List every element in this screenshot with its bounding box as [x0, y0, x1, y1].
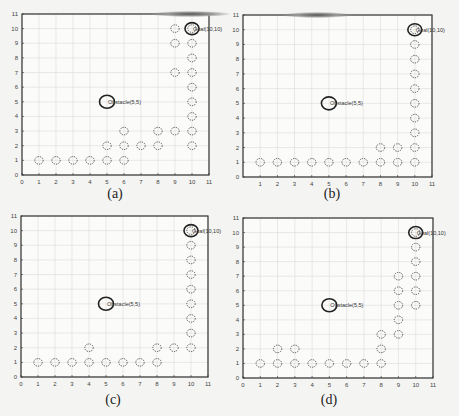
x-tick-label: 7 — [362, 382, 366, 388]
y-tick-label: 3 — [236, 331, 240, 337]
obstacle-label: Obstacle(5,5) — [330, 302, 363, 308]
caption-c: (c) — [93, 392, 133, 408]
y-tick-label: 9 — [15, 40, 19, 46]
y-tick-label: 11 — [12, 11, 19, 17]
y-tick-label: 1 — [236, 159, 240, 165]
plot-area — [243, 15, 432, 177]
x-tick-label: 9 — [396, 181, 400, 187]
goal-label: Goal(10,10) — [193, 26, 222, 32]
x-tick-label: 5 — [328, 382, 332, 388]
y-tick-label: 11 — [233, 215, 240, 221]
chart-panel-a: 0123456789101101234567891011Obstacle(5,5… — [0, 0, 230, 205]
scatter-plot-c: 0123456789101101234567891011Obstacle(5,5… — [0, 205, 230, 410]
y-tick-label: 2 — [236, 145, 240, 151]
x-tick-label: 2 — [53, 381, 57, 387]
y-tick-label: 10 — [232, 230, 239, 236]
x-tick-label: 0 — [241, 382, 245, 388]
x-tick-label: 4 — [310, 382, 314, 388]
y-tick-label: 8 — [236, 259, 240, 265]
x-tick-label: 4 — [87, 381, 91, 387]
caption-a: (a) — [95, 186, 135, 202]
y-tick-label: 0 — [236, 375, 240, 381]
x-tick-label: 7 — [139, 179, 143, 185]
x-tick-label: 5 — [105, 179, 109, 185]
y-tick-label: 4 — [15, 113, 19, 119]
x-tick-label: 3 — [293, 382, 297, 388]
y-tick-label: 8 — [15, 55, 19, 61]
chart-panel-c: 0123456789101101234567891011Obstacle(5,5… — [0, 205, 230, 410]
y-tick-label: 6 — [236, 288, 240, 294]
y-tick-label: 9 — [14, 242, 18, 248]
y-tick-label: 7 — [15, 70, 19, 76]
plot-area — [243, 218, 433, 378]
y-tick-label: 7 — [236, 71, 240, 77]
x-tick-label: 3 — [71, 179, 75, 185]
y-tick-label: 2 — [15, 143, 19, 149]
obstacle-label: Obstacle(5,5) — [107, 301, 140, 307]
scan-smudge — [150, 11, 230, 17]
x-tick-label: 3 — [70, 381, 74, 387]
y-tick-label: 0 — [15, 172, 19, 178]
y-tick-label: 7 — [14, 272, 18, 278]
x-tick-label: 1 — [259, 181, 263, 187]
y-tick-label: 2 — [236, 346, 240, 352]
y-tick-label: 3 — [14, 330, 18, 336]
x-tick-label: 10 — [189, 179, 196, 185]
x-tick-label: 2 — [276, 382, 280, 388]
x-tick-label: 8 — [380, 382, 384, 388]
y-tick-label: 0 — [236, 174, 240, 180]
x-tick-label: 4 — [88, 179, 92, 185]
y-tick-label: 6 — [14, 286, 18, 292]
x-tick-label: 2 — [54, 179, 58, 185]
y-tick-label: 8 — [14, 257, 18, 263]
chart-panel-b: 123456789101101234567891011Obstacle(5,5)… — [229, 0, 459, 205]
y-tick-label: 10 — [232, 27, 239, 33]
x-tick-label: 11 — [206, 179, 213, 185]
y-tick-label: 1 — [14, 359, 18, 365]
x-tick-label: 8 — [155, 381, 159, 387]
y-tick-label: 3 — [15, 128, 19, 134]
caption-b: (b) — [312, 186, 352, 202]
x-tick-label: 8 — [156, 179, 160, 185]
x-tick-label: 9 — [397, 382, 401, 388]
y-tick-label: 5 — [236, 100, 240, 106]
x-tick-label: 7 — [138, 381, 142, 387]
x-tick-label: 11 — [429, 181, 436, 187]
x-tick-label: 1 — [259, 382, 263, 388]
x-tick-label: 2 — [276, 181, 280, 187]
y-tick-label: 9 — [236, 41, 240, 47]
y-tick-label: 1 — [236, 360, 240, 366]
x-tick-label: 11 — [430, 382, 437, 388]
x-tick-label: 9 — [172, 381, 176, 387]
y-tick-label: 10 — [11, 26, 18, 32]
y-tick-label: 11 — [11, 213, 18, 219]
x-tick-label: 11 — [205, 381, 212, 387]
obstacle-label: Obstacle(5,5) — [330, 100, 363, 106]
y-tick-label: 6 — [236, 86, 240, 92]
y-tick-label: 5 — [14, 301, 18, 307]
plot-area — [21, 216, 208, 377]
y-tick-label: 1 — [15, 157, 19, 163]
obstacle-label: Obstacle(5,5) — [108, 99, 141, 105]
plot-area — [22, 14, 209, 175]
scatter-plot-a: 0123456789101101234567891011Obstacle(5,5… — [0, 0, 230, 205]
y-tick-label: 4 — [236, 115, 240, 121]
scatter-plot-d: 0123456789101101234567891011Obstacle(5,5… — [229, 205, 459, 410]
x-tick-label: 6 — [121, 381, 125, 387]
y-tick-label: 10 — [10, 228, 17, 234]
y-tick-label: 4 — [236, 317, 240, 323]
y-tick-label: 11 — [233, 12, 240, 18]
chart-panel-d: 0123456789101101234567891011Obstacle(5,5… — [229, 205, 459, 410]
goal-label: Goal(10,10) — [192, 228, 221, 234]
x-tick-label: 1 — [37, 179, 41, 185]
x-tick-label: 3 — [293, 181, 297, 187]
y-tick-label: 3 — [236, 130, 240, 136]
x-tick-label: 6 — [122, 179, 126, 185]
scatter-plot-b: 123456789101101234567891011Obstacle(5,5)… — [229, 0, 459, 205]
y-tick-label: 9 — [236, 244, 240, 250]
x-tick-label: 9 — [173, 179, 177, 185]
y-tick-label: 7 — [236, 273, 240, 279]
x-tick-label: 10 — [188, 381, 195, 387]
caption-d: (d) — [309, 392, 349, 408]
y-tick-label: 6 — [15, 84, 19, 90]
